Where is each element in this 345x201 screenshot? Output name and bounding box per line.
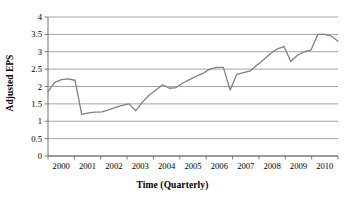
y-tick-label: 2 — [38, 82, 42, 92]
x-tick-label: 2006 — [211, 161, 229, 171]
chart-canvas: 00.511.522.533.54 2000200120022003200420… — [0, 0, 345, 201]
x-tick-label: 2001 — [79, 161, 96, 171]
eps-data-line — [48, 34, 338, 114]
x-tick-label: 2000 — [53, 161, 70, 171]
x-tick-label: 2009 — [290, 161, 307, 171]
y-axis-tick-labels: 00.511.522.533.54 — [31, 12, 42, 161]
x-tick-label: 2002 — [105, 161, 122, 171]
x-axis-title: Time (Quarterly) — [0, 180, 345, 190]
y-tick-label: 3 — [38, 47, 42, 57]
y-tick-marks-group — [45, 17, 49, 156]
y-tick-label: 0.5 — [31, 134, 42, 144]
x-tick-label: 2007 — [237, 161, 255, 171]
y-tick-label: 1 — [38, 116, 42, 126]
y-tick-label: 2.5 — [31, 64, 42, 74]
y-tick-label: 0 — [38, 151, 42, 161]
x-tick-label: 2003 — [132, 161, 149, 171]
y-tick-label: 4 — [38, 12, 43, 22]
eps-line-chart: 00.511.522.533.54 2000200120022003200420… — [0, 0, 345, 201]
x-tick-marks-group — [48, 156, 338, 160]
x-tick-label: 2008 — [263, 161, 280, 171]
gridlines-group — [48, 17, 338, 156]
y-tick-label: 3.5 — [31, 29, 42, 39]
x-tick-label: 2004 — [158, 161, 176, 171]
x-tick-label: 2005 — [184, 161, 201, 171]
y-tick-label: 1.5 — [31, 99, 42, 109]
x-axis-tick-labels: 2000200120022003200420052006200720082009… — [53, 161, 334, 171]
x-tick-label: 2010 — [316, 161, 333, 171]
